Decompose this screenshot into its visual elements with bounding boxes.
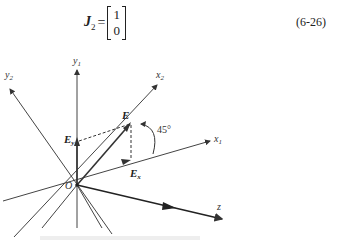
origin-point [75,183,79,187]
angle-label: 45° [157,124,171,135]
x2-axis [14,85,157,237]
z-axis [77,185,222,219]
Ey-label: Ey [63,133,75,147]
y1-label: y1 [72,55,81,68]
polarization-diagram: y1 y2 x1 x2 z E Ey Ex O 45° [0,0,353,243]
x2-label: x2 [155,69,164,82]
cut-off-caption [40,236,200,240]
z-label: z [216,201,221,212]
Ex-label: Ex [129,167,141,181]
E-label: E [121,109,129,121]
origin-label: O [65,180,72,191]
angle-arc [141,124,155,154]
x1-label: x1 [213,133,222,146]
y2-label: y2 [4,69,13,82]
